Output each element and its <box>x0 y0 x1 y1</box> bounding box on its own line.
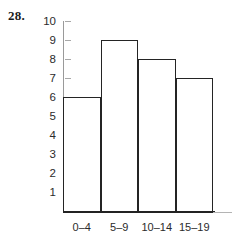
y-axis-tick-label: 4 <box>32 129 56 141</box>
y-axis-tick-label: 3 <box>32 148 56 160</box>
y-axis-tick-label: 1 <box>32 186 56 198</box>
histogram-bar <box>101 40 139 211</box>
y-axis-tick-labels: 10987654321 <box>30 0 56 242</box>
y-axis-tick-mark <box>65 21 71 22</box>
histogram-chart: 10987654321 0–45–910–1415–19 <box>0 0 248 242</box>
y-axis-tick-label: 6 <box>32 91 56 103</box>
y-axis-tick-label: 8 <box>32 53 56 65</box>
x-axis-baseline <box>63 211 215 213</box>
y-axis-tick-mark <box>65 59 71 60</box>
histogram-bar <box>63 97 101 211</box>
y-axis-tick-label: 10 <box>32 15 56 27</box>
y-axis-tick-mark <box>65 40 71 41</box>
x-axis-tick-label: 15–19 <box>164 221 224 233</box>
y-axis-tick-label: 5 <box>32 110 56 122</box>
y-axis-tick-label: 9 <box>32 34 56 46</box>
histogram-figure: 28. 10987654321 0–45–910–1415–19 <box>0 0 248 242</box>
histogram-bar <box>176 78 214 211</box>
y-axis-tick-label: 7 <box>32 72 56 84</box>
x-axis-baseline-extension <box>213 212 232 213</box>
y-axis-line-upper <box>63 21 64 97</box>
histogram-bar <box>138 59 176 211</box>
y-axis-tick-label: 2 <box>32 167 56 179</box>
y-axis-tick-mark <box>65 78 71 79</box>
